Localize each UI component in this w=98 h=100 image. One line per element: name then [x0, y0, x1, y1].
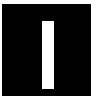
white-bar-glyph — [42, 21, 54, 89]
black-square-icon — [2, 4, 91, 96]
